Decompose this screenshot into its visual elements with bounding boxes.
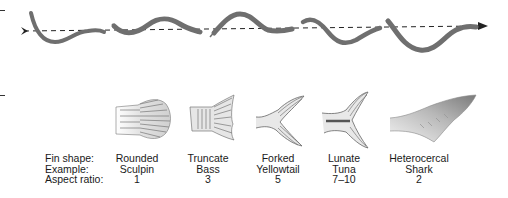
fin-aspect-ratio: 3: [187, 174, 228, 185]
fin-aspect-ratio: 7–10: [328, 174, 360, 185]
eel-frame-1: [31, 13, 104, 42]
swimming-sequence: [21, 13, 488, 50]
fin-column-heterocercal: Heterocercal Shark 2: [389, 153, 449, 185]
label-fin-shape: Fin shape:: [45, 153, 103, 164]
fin-aspect-ratio: 5: [256, 174, 299, 185]
fin-aspect-ratio: 1: [116, 174, 159, 185]
fin-aspect-ratio: 2: [389, 174, 449, 185]
heterocercal-fin-icon: [390, 95, 476, 142]
fin-shape-name: Lunate: [328, 153, 360, 164]
eel-frame-4: [303, 20, 380, 43]
fin-column-truncate: Truncate Bass 3: [187, 153, 228, 185]
arrow-tail-icon: [21, 27, 28, 35]
rounded-fin-icon: [116, 100, 171, 139]
fin-column-forked: Forked Yellowtail 5: [256, 153, 299, 185]
fin-column-lunate: Lunate Tuna 7–10: [328, 153, 360, 185]
fin-shape-name: Truncate: [187, 153, 228, 164]
fin-column-rounded: Rounded Sculpin 1: [116, 153, 159, 185]
fin-shape-name: Heterocercal: [389, 153, 449, 164]
arrow-head-icon: [478, 22, 488, 30]
fin-shape-name: Rounded: [116, 153, 159, 164]
eel-frame-2: [114, 19, 200, 33]
truncate-fin-icon: [190, 95, 234, 140]
row-labels: Fin shape: Example: Aspect ratio:: [45, 153, 103, 185]
forked-fin-icon: [256, 96, 304, 146]
fin-diagram: Fin shape: Example: Aspect ratio: Rounde…: [0, 0, 508, 198]
eel-frame-5: [388, 21, 476, 50]
eel-frame-3: [214, 14, 292, 33]
label-aspect-ratio: Aspect ratio:: [45, 174, 103, 185]
lunate-fin-icon: [322, 92, 368, 148]
fin-shape-name: Forked: [256, 153, 299, 164]
